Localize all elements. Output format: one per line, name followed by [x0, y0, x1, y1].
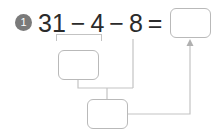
- answer-input-box[interactable]: [170, 8, 211, 38]
- step-1-input-box[interactable]: [58, 50, 99, 80]
- equation-row: 31 − 4 − 8 =: [38, 9, 164, 37]
- connector-into-answer: [128, 45, 190, 114]
- connector-from-step-1: [78, 80, 133, 88]
- worksheet-problem: 1 31 − 4 − 8 =: [0, 0, 221, 139]
- grouping-bracket: [56, 34, 102, 41]
- equals-sign: =: [143, 9, 165, 38]
- problem-number-badge: 1: [15, 14, 32, 31]
- arrowhead-icon: [187, 39, 194, 46]
- operand-3: 8: [129, 9, 143, 38]
- operator-2: −: [104, 9, 129, 38]
- step-2-input-box[interactable]: [87, 99, 128, 129]
